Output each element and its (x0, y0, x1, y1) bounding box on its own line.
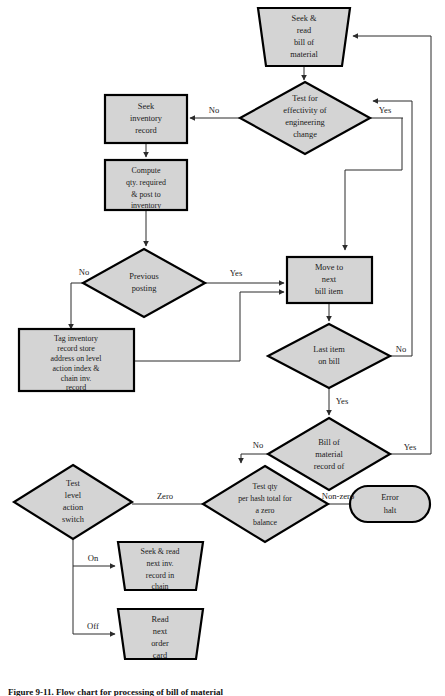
flowchart-diagram: Seek & read bill of material Test for ef… (0, 0, 445, 696)
read-order-card-line-0: Read (151, 615, 169, 624)
move-next-item-line-1: next (322, 275, 337, 284)
test-level-line-2: action (63, 503, 84, 512)
seek-next-inv-line-3: chain (151, 582, 168, 591)
edge-label-non-zero: Non-zero (322, 491, 354, 501)
move-next-item-line-0: Move to (315, 263, 343, 272)
move-next-item-line-2: bill item (315, 287, 344, 296)
seek-inventory-line-2: record (135, 126, 157, 135)
node-seek-next-inv-record[interactable]: Seek & read next inv. record in chain (118, 542, 203, 591)
seek-bill-line-2: bill of (294, 38, 314, 47)
edge-label-zero: Zero (157, 491, 173, 501)
test-qty-hash-line-3: balance (253, 518, 278, 527)
edge-label-yes-bom: Yes (404, 442, 417, 452)
edge-label-yes-effectivity: Yes (379, 105, 392, 115)
tag-inventory-line-3: action index & (53, 364, 100, 373)
test-level-line-0: Test (66, 479, 81, 488)
compute-qty-line-1: qty. required (126, 178, 166, 187)
test-qty-hash-line-0: Test qty (252, 482, 277, 491)
tag-inventory-line-4: chain inv. (61, 374, 92, 383)
tag-inventory-line-5: record (66, 383, 86, 392)
node-error-halt[interactable]: Error halt (350, 486, 430, 522)
edge-label-no-effectivity: No (209, 105, 220, 115)
node-seek-inventory-record[interactable]: Seek inventory record (105, 95, 187, 143)
bom-record-line-2: record of (314, 462, 345, 471)
edge-previous-posting-no-to-tag-inventory (71, 283, 83, 329)
test-effectivity-line-1: effectivity of (283, 106, 327, 115)
error-halt-line-1: halt (384, 506, 397, 515)
seek-next-inv-line-1: next inv. (146, 559, 173, 568)
compute-qty-line-0: Compute (132, 166, 161, 175)
edge-label-on: On (88, 553, 99, 563)
edge-label-no-last-item: No (396, 344, 407, 354)
edge-last-item-no-to-test-effectivity (373, 101, 412, 356)
seek-next-inv-line-0: Seek & read (141, 547, 180, 556)
edge-bom-record-no-to-test-qty-hash (241, 454, 268, 463)
edge-label-yes-previous: Yes (230, 268, 243, 278)
seek-next-inv-line-2: record in (146, 571, 174, 580)
edge-label-yes-last-item: Yes (336, 396, 349, 406)
node-test-effectivity[interactable]: Test for effectivity of engineering chan… (240, 82, 370, 154)
node-compute-qty[interactable]: Compute qty. required & post to inventor… (105, 160, 187, 210)
figure-caption: Figure 9-11. Flow chart for processing o… (8, 687, 438, 696)
test-qty-hash-line-2: a zero (255, 506, 274, 515)
seek-bill-line-3: material (290, 50, 318, 59)
previous-posting-line-1: posting (132, 284, 157, 293)
test-effectivity-line-3: change (293, 130, 317, 139)
test-effectivity-line-2: engineering (285, 118, 325, 127)
node-seek-bill-of-material[interactable]: Seek & read bill of material (258, 8, 350, 66)
last-item-line-1: on bill (318, 357, 340, 366)
seek-inventory-line-0: Seek (138, 102, 155, 111)
bom-record-line-0: Bill of (318, 438, 340, 447)
tag-inventory-line-2: address on level (51, 354, 103, 363)
edge-bom-record-yes-to-seek-bill (353, 36, 431, 454)
error-halt-shape (350, 486, 430, 522)
error-halt-line-0: Error (381, 493, 399, 502)
test-level-line-3: switch (62, 515, 85, 524)
edge-test-effectivity-yes-segment2 (345, 118, 402, 250)
node-last-item-on-bill[interactable]: Last item on bill (268, 324, 390, 388)
seek-bill-line-0: Seek & (292, 14, 317, 23)
test-effectivity-line-0: Test for (292, 94, 318, 103)
flowchart-svg: Seek & read bill of material Test for ef… (0, 0, 445, 696)
last-item-line-0: Last item (313, 345, 345, 354)
test-level-line-1: level (65, 491, 82, 500)
node-move-next-bill-item[interactable]: Move to next bill item (287, 257, 372, 303)
compute-qty-line-2: & post to (131, 190, 160, 199)
previous-posting-line-0: Previous (129, 272, 158, 281)
compute-qty-line-3: inventory (131, 201, 161, 210)
read-order-card-line-3: card (153, 651, 168, 660)
read-order-card-line-2: order (151, 639, 169, 648)
node-tag-inventory-record[interactable]: Tag inventory record store address on le… (19, 329, 134, 392)
edge-label-no-bom: No (253, 440, 264, 450)
tag-inventory-line-0: Tag inventory (54, 334, 98, 343)
edge-label-off: Off (87, 621, 99, 631)
bom-record-line-1: material (315, 450, 343, 459)
test-qty-hash-line-1: per hash total for (238, 494, 292, 503)
edge-label-no-previous: No (79, 267, 90, 277)
node-test-level-action-switch[interactable]: Test level action switch (14, 465, 132, 539)
node-previous-posting[interactable]: Previous posting (83, 249, 205, 317)
read-order-card-line-1: next (153, 627, 168, 636)
tag-inventory-line-1: record store (57, 344, 95, 353)
seek-inventory-line-1: inventory (130, 114, 163, 123)
node-read-next-order-card[interactable]: Read next order card (118, 609, 203, 660)
seek-bill-line-1: read (297, 26, 312, 35)
